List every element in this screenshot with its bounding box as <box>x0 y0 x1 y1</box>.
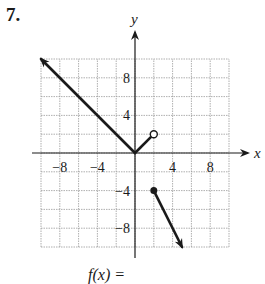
svg-text:−4: −4 <box>90 160 105 175</box>
svg-text:4: 4 <box>169 160 176 175</box>
svg-text:−8: −8 <box>52 160 67 175</box>
function-caption: f(x) = <box>88 266 125 284</box>
svg-text:−4: −4 <box>115 184 130 199</box>
svg-text:8: 8 <box>207 160 214 175</box>
svg-text:x: x <box>253 145 261 161</box>
svg-text:4: 4 <box>123 108 130 123</box>
svg-text:−8: −8 <box>115 221 130 236</box>
svg-text:y: y <box>129 11 138 27</box>
svg-text:8: 8 <box>123 71 130 86</box>
